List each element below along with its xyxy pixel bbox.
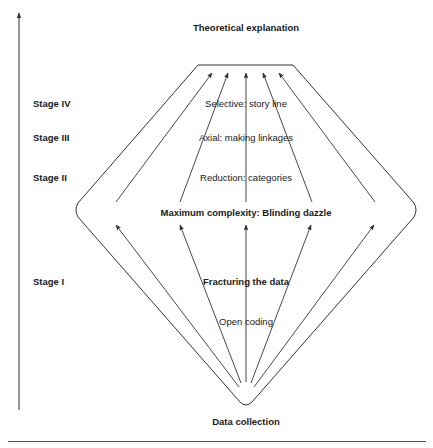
open-coding-label: Open coding xyxy=(219,316,273,327)
data-collection-label: Data collection xyxy=(212,416,280,427)
stage-ii-description: Reduction: categories xyxy=(200,172,292,183)
diagram-canvas xyxy=(0,0,433,448)
stage-i-label: Stage I xyxy=(33,276,64,287)
stage-iii-description: Axial: making linkages xyxy=(199,132,293,143)
maximum-complexity-label: Maximum complexity: Blinding dazzle xyxy=(158,207,333,218)
lower-arrows xyxy=(116,225,374,387)
stage-iv-description: Selective: story line xyxy=(205,98,287,109)
stage-iii-label: Stage III xyxy=(33,132,69,143)
stage-i-description: Fracturing the data xyxy=(203,276,289,287)
stage-iv-label: Stage IV xyxy=(33,98,71,109)
stage-ii-label: Stage II xyxy=(33,172,67,183)
theoretical-explanation-label: Theoretical explanation xyxy=(193,22,299,33)
bottom-rule xyxy=(8,441,426,442)
